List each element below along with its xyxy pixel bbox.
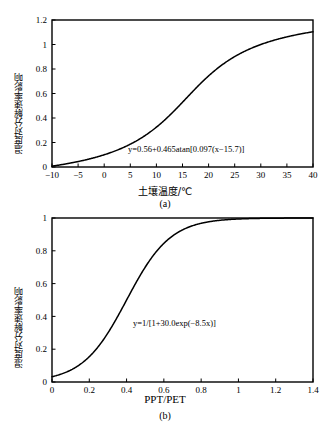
x-axis-label-b: PPT/PET — [0, 393, 330, 405]
y-tick-label: 0.8 — [36, 64, 48, 74]
y-tick-label: 0.4 — [36, 312, 48, 322]
x-tick-label: 35 — [282, 170, 292, 180]
y-axis-label-a: 温度对分解速率影响 — [14, 34, 23, 154]
x-tick-label: 10 — [152, 170, 162, 180]
x-tick-label: −10 — [45, 170, 60, 180]
figure-caption-b: (b) — [0, 410, 330, 421]
y-tick-label: 0 — [43, 162, 48, 172]
x-tick-label: 5 — [128, 170, 133, 180]
x-tick-label: 30 — [256, 170, 266, 180]
figure-caption-a: (a) — [0, 198, 330, 209]
y-tick-label: 1 — [43, 40, 48, 50]
y-tick-label: 1.2 — [36, 15, 47, 25]
x-tick-label: 0 — [102, 170, 107, 180]
x-tick-label: 15 — [178, 170, 188, 180]
x-tick-label: −5 — [73, 170, 83, 180]
y-tick-label: 0.6 — [36, 89, 48, 99]
y-tick-label: 1 — [43, 215, 48, 223]
x-tick-label: 40 — [309, 170, 319, 180]
x-tick-label: 20 — [204, 170, 214, 180]
y-tick-label: 0.6 — [36, 279, 48, 289]
x-tick-label: 25 — [230, 170, 240, 180]
y-axis-label-b: 湿度对分解速率影响 — [14, 248, 23, 368]
y-tick-label: 0.2 — [36, 344, 47, 354]
y-tick-label: 0 — [43, 377, 48, 387]
equation-annotation: y=0.56+0.465atan[0.097(x−15.7)] — [128, 144, 245, 154]
y-tick-label: 0.8 — [36, 246, 48, 256]
series-line — [52, 218, 313, 377]
figure-a: −10−5051015202530354000.20.40.60.811.2y=… — [0, 0, 330, 215]
y-tick-label: 0.2 — [36, 138, 47, 148]
equation-annotation: y=1/[1+30.0exp(−8.5x)] — [133, 318, 216, 328]
y-tick-label: 0.4 — [36, 113, 48, 123]
x-axis-label-a: 土壤温度/℃ — [0, 183, 330, 198]
